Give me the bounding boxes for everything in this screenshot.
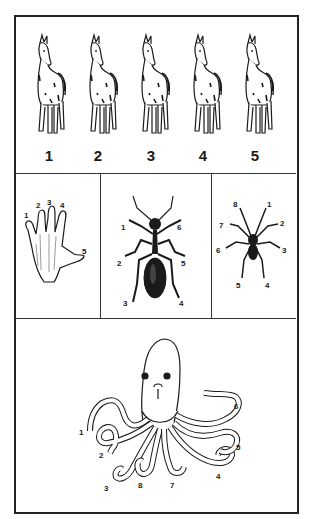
horse-2	[90, 35, 117, 133]
spider-leg-label-6: 6	[216, 246, 221, 255]
octopus-panel: 1 2 3 4 5 6 7 8	[16, 319, 295, 510]
octopus-arm-label-1: 1	[79, 428, 84, 437]
ant-leg-label-1: 1	[121, 223, 126, 232]
ant-leg-label-3: 3	[123, 299, 128, 308]
octopus-arm-label-8: 8	[138, 481, 143, 490]
spider-leg-label-1: 1	[267, 200, 272, 209]
horse-5	[246, 35, 273, 133]
ant-leg-label-5: 5	[181, 259, 186, 268]
octopus-arm-label-2: 2	[99, 451, 104, 460]
finger-label-2: 2	[36, 201, 41, 210]
horse-label-3: 3	[141, 147, 161, 164]
horse-label-1: 1	[39, 147, 59, 164]
spider-leg-label-3: 3	[282, 246, 287, 255]
spider-leg-label-4: 4	[265, 281, 270, 290]
octopus-illustration: 1 2 3 4 5 6 7 8	[16, 319, 295, 510]
octopus-arm-label-7: 7	[170, 481, 175, 490]
hand-outline	[26, 206, 84, 282]
octopus-arm-label-5: 5	[236, 443, 241, 452]
ant-leg-label-4: 4	[179, 299, 184, 308]
horse-label-4: 4	[193, 147, 213, 164]
hand-panel: 1 2 3 4 5	[16, 174, 100, 318]
finger-label-3: 3	[47, 198, 52, 207]
horse-label-5: 5	[245, 147, 265, 164]
spider-leg-label-2: 2	[280, 219, 285, 228]
spider-leg-label-8: 8	[233, 200, 238, 209]
octopus-arm-label-3: 3	[104, 484, 109, 493]
hand-illustration: 1 2 3 4 5	[16, 174, 100, 318]
octopus-arm-label-4: 4	[216, 472, 221, 481]
finger-label-1: 1	[24, 211, 29, 220]
horse-label-2: 2	[88, 147, 108, 164]
spider-leg-label-5: 5	[236, 281, 241, 290]
ant-leg-label-6: 6	[177, 223, 182, 232]
horse-1	[38, 35, 65, 133]
horse-4	[194, 35, 221, 133]
horses-panel: 1 2 3 4 5	[0, 0, 310, 173]
ant-leg-label-2: 2	[117, 259, 122, 268]
finger-label-4: 4	[60, 201, 65, 210]
finger-label-5: 5	[82, 247, 87, 256]
spider-leg-label-7: 7	[219, 221, 224, 230]
ant-illustration: 1 2 3 4 5 6	[101, 174, 211, 318]
horse-3	[142, 35, 169, 133]
ant-panel: 1 2 3 4 5 6	[101, 174, 211, 318]
octopus-arm-label-6: 6	[234, 402, 239, 411]
spider-illustration: 1 2 3 4 5 6 7 8	[212, 174, 296, 318]
spider-panel: 1 2 3 4 5 6 7 8	[212, 174, 296, 318]
